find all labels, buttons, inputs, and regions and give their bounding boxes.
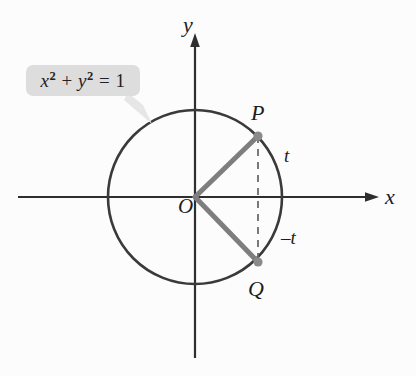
radius-op [195, 136, 258, 197]
point-label-p: P [251, 102, 264, 124]
y-axis-label: y [183, 14, 193, 36]
callout-tail [124, 93, 152, 124]
equation-equals: = [94, 70, 116, 91]
x-axis-arrowhead [365, 192, 379, 202]
point-marker-q [253, 257, 262, 266]
equation-rhs: 1 [115, 70, 125, 91]
equation-var-y: y [78, 70, 87, 91]
figure-canvas: y x O P Q t –t x2 + y2 = 1 [0, 0, 416, 376]
x-axis-label: x [385, 186, 395, 208]
point-label-q: Q [248, 278, 264, 300]
equation-text: x2 + y2 = 1 [41, 70, 126, 92]
equation-exponent-y: 2 [87, 68, 94, 82]
point-marker-p [253, 131, 262, 140]
equation-callout-box: x2 + y2 = 1 [26, 65, 140, 96]
equation-plus: + [56, 70, 78, 91]
equation-var-x: x [41, 70, 50, 91]
arc-label-negative-t: –t [281, 228, 296, 247]
unit-circle-diagram [0, 0, 416, 376]
arc-label-t: t [284, 146, 289, 165]
origin-label: O [178, 196, 193, 217]
radius-oq [195, 197, 258, 262]
